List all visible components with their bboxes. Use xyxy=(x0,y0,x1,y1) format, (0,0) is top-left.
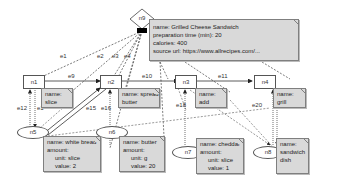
edge-label-e20: e20 xyxy=(252,102,263,108)
note-n5-line1: name: white bread xyxy=(47,138,97,146)
note-n9-line2: preparation time (min): 20 xyxy=(153,31,295,39)
note-n9: name: Grilled Cheese Sandwich preparatio… xyxy=(149,19,299,61)
n9-hub-anchor xyxy=(137,28,147,33)
note-n8-line2: sandwich xyxy=(280,148,305,156)
note-n5-line2: amount: xyxy=(47,146,97,154)
note-n7: name: cheddar amount: unit: slice value:… xyxy=(196,138,244,174)
note-n2-line1: name: spread xyxy=(122,90,156,98)
edge-label-e3: e3 xyxy=(112,53,119,59)
note-n7-line1: name: cheddar xyxy=(200,140,240,148)
note-n6-line4: value: 20 xyxy=(123,162,161,170)
note-fold xyxy=(67,88,73,94)
note-fold xyxy=(238,138,244,144)
note-n9-line3: calories: 400 xyxy=(153,39,295,47)
note-n3-line2: add xyxy=(199,98,223,106)
node-n1[interactable]: n1 xyxy=(23,75,45,89)
note-n7-line3: unit: slice xyxy=(200,156,240,164)
note-n4: name: grill xyxy=(273,88,306,108)
note-n5: name: white bread amount: unit: slice va… xyxy=(43,136,101,172)
note-fold xyxy=(159,136,165,142)
edge-label-e11: e11 xyxy=(218,73,228,79)
note-n1-line2: slice xyxy=(45,98,69,106)
note-n1-line1: name: xyxy=(45,90,69,98)
note-n2: name: spread butter xyxy=(118,88,160,108)
edge-label-e12: e12 xyxy=(17,105,28,111)
edge-n9-n3 xyxy=(160,62,168,79)
edge-label-e18: e18 xyxy=(176,102,187,108)
edge-label-e15: e15 xyxy=(86,105,97,111)
note-n9-line1: name: Grilled Cheese Sandwich xyxy=(153,23,295,31)
note-n3-line1: name: xyxy=(199,90,223,98)
note-n2-line2: butter xyxy=(122,98,156,106)
edge-label-e1: e1 xyxy=(60,53,67,59)
note-n4-line2: grill xyxy=(277,98,302,106)
note-n9-line4: source url: https://www.allrecipes.com/.… xyxy=(153,47,295,55)
note-n6-line1: name: butter xyxy=(123,138,161,146)
edge-label-e10: e10 xyxy=(142,73,153,79)
node-n4[interactable]: n4 xyxy=(254,75,276,89)
edge-label-e9: e9 xyxy=(68,73,75,79)
edge-label-e16: e16 xyxy=(101,105,112,111)
note-n6-line3: unit: g xyxy=(123,154,161,162)
note-n8-line3: dish xyxy=(280,156,305,164)
node-n3[interactable]: n3 xyxy=(175,75,197,89)
note-n6-line2: amount: xyxy=(123,146,161,154)
edge-label-e4: e4 xyxy=(124,53,131,59)
note-fold xyxy=(303,138,309,144)
note-n4-line1: name: xyxy=(277,90,302,98)
note-fold xyxy=(221,88,227,94)
note-fold xyxy=(154,88,160,94)
node-n2[interactable]: n2 xyxy=(100,75,122,89)
note-fold xyxy=(95,136,101,142)
note-fold xyxy=(293,19,299,25)
note-n1: name: slice xyxy=(41,88,73,108)
note-n8-line1: name: xyxy=(280,140,305,148)
edge-label-e2: e2 xyxy=(97,53,104,59)
note-fold xyxy=(300,88,306,94)
note-n5-line3: unit: slice xyxy=(47,154,97,162)
note-n6: name: butter amount: unit: g value: 20 xyxy=(119,136,165,172)
note-n7-line4: value: 1 xyxy=(200,164,240,172)
note-n8: name: sandwich dish xyxy=(276,138,309,174)
note-n3: name: add xyxy=(195,88,227,108)
note-n5-line4: value: 2 xyxy=(47,162,97,170)
note-n7-line2: amount: xyxy=(200,148,240,156)
